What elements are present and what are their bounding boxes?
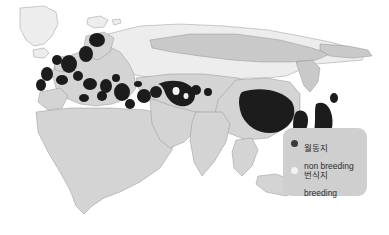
distribution-map-figure: 월동지 non breeding 번식지 breeding [0,0,389,235]
legend-breeding-label-ko: 번식지 [304,170,328,180]
nonbreeding-marker-icon [291,140,298,147]
legend-nonbreeding-label-ko: 월동지 [304,143,328,153]
map-legend: 월동지 non breeding 번식지 breeding [283,128,367,196]
legend-breeding-label-en: breeding [304,188,337,198]
legend-item-breeding[interactable]: 번식지 breeding [291,164,337,200]
legend-item-breeding-labels: 번식지 breeding [304,164,337,200]
breeding-marker-icon [291,167,298,174]
